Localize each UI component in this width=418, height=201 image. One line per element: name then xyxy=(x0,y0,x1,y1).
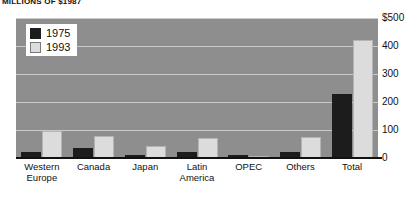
chart-title: MILLIONS OF $1987 xyxy=(2,0,81,6)
bar-1993-western-europe xyxy=(42,131,62,158)
x-axis-label-line: Japan xyxy=(132,161,158,172)
legend-item-1993: 1993 xyxy=(30,41,70,53)
x-axis: WesternEuropeCanadaJapanLatinAmericaOPEC… xyxy=(16,161,378,199)
y-axis-tick-label: 100 xyxy=(382,124,399,135)
chart-legend: 1975 1993 xyxy=(26,24,77,56)
x-axis-label-line: America xyxy=(180,172,215,183)
y-axis-tick-label: 0 xyxy=(382,152,388,163)
x-axis-label: Total xyxy=(326,161,378,172)
bar-1975-total xyxy=(332,94,352,158)
x-axis-label: Others xyxy=(275,161,327,172)
x-axis-label-line: Total xyxy=(342,161,362,172)
x-axis-label: LatinAmerica xyxy=(171,161,223,183)
x-axis-label-line: Europe xyxy=(27,172,58,183)
y-axis: 0100200300400$500 xyxy=(380,0,418,170)
legend-label-1993: 1993 xyxy=(46,41,70,53)
x-axis-label-line: Others xyxy=(286,161,315,172)
y-axis-tick-label: 200 xyxy=(382,96,399,107)
bar-1993-others xyxy=(301,137,321,158)
x-axis-label-line: Canada xyxy=(77,161,110,172)
legend-swatch-icon-1993 xyxy=(30,42,41,53)
y-axis-tick-label: $500 xyxy=(382,12,404,23)
bar-1993-latin-america xyxy=(198,138,218,158)
x-axis-label: Japan xyxy=(119,161,171,172)
x-axis-label-line: Western xyxy=(24,161,59,172)
legend-swatch-icon-1975 xyxy=(30,28,41,39)
legend-label-1975: 1975 xyxy=(46,27,70,39)
bar-1993-total xyxy=(353,40,373,158)
bar-chart: MILLIONS OF $1987 0100200300400$500 West… xyxy=(0,0,418,201)
x-axis-label: OPEC xyxy=(223,161,275,172)
x-axis-label-line: OPEC xyxy=(235,161,262,172)
bar-1993-canada xyxy=(94,136,114,158)
legend-item-1975: 1975 xyxy=(30,27,70,39)
x-axis-label: Canada xyxy=(68,161,120,172)
axis-baseline xyxy=(16,157,382,159)
y-axis-tick-label: 300 xyxy=(382,68,399,79)
x-axis-label: WesternEurope xyxy=(16,161,68,183)
y-axis-tick-label: 400 xyxy=(382,40,399,51)
x-axis-label-line: Latin xyxy=(187,161,208,172)
